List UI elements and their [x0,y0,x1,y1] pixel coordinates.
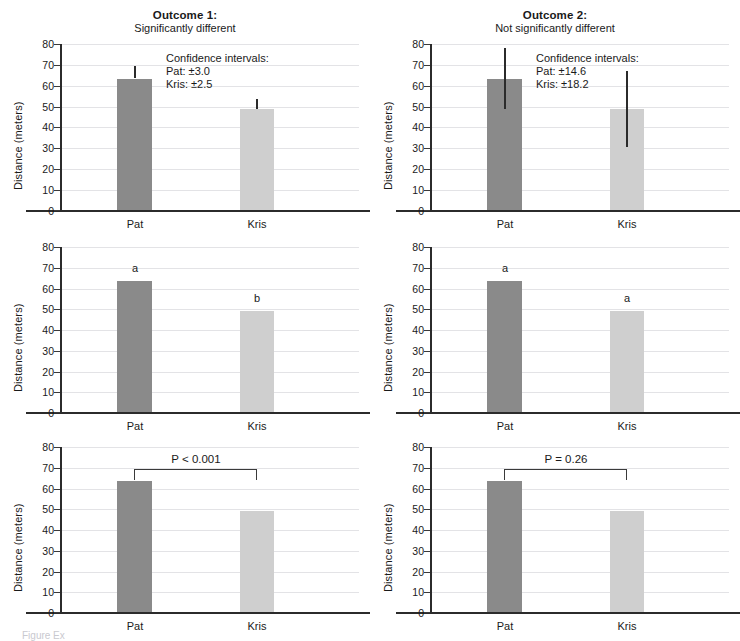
error-bar-kris [626,71,628,147]
y-tick-0 [424,210,430,211]
bar-kris [240,109,274,210]
gridline-10 [432,190,729,191]
y-tick-label-0: 0 [8,408,54,418]
error-bar-pat [504,48,506,109]
figure-caption: Figure Ex [22,630,65,641]
y-tick-20 [424,372,430,373]
gridline-80 [432,447,729,448]
x-tick-label-kris: Kris [227,218,287,230]
x-tick-label-pat: Pat [105,218,165,230]
panel-outcome2-pvalue: 80 70 60 50 40 30 20 10 0 Distance (mete… [370,435,740,635]
column-title-outcome1: Outcome 1: Significantly different [0,8,370,36]
y-tick-label-60: 60 [8,484,54,494]
letter-label-kris: a [597,292,657,304]
y-tick-20 [424,572,430,573]
y-tick-30 [54,148,60,149]
y-tick-30 [424,551,430,552]
gridline-10 [432,592,729,593]
y-tick-label-0: 0 [8,608,54,618]
y-tick-label-80: 80 [8,242,54,252]
gridline-30 [432,148,729,149]
y-tick-60 [54,86,60,87]
y-tick-60 [424,489,430,490]
annotation-line-1: Confidence intervals: [536,52,639,66]
column-title-sub: Significantly different [0,22,370,36]
y-axis-label: Distance (meters) [12,102,24,191]
y-tick-80 [424,44,430,45]
y-tick-10 [424,190,430,191]
bar-kris [240,511,274,612]
pvalue-label: P = 0.26 [505,453,627,465]
gridline-40 [62,530,359,531]
y-tick-10 [424,592,430,593]
gridline-20 [62,169,359,170]
gridline-10 [62,592,359,593]
y-tick-60 [424,289,430,290]
y-axis-label: Distance (meters) [382,102,394,191]
y-tick-label-70: 70 [8,60,54,70]
gridline-40 [432,127,729,128]
x-tick-label-pat: Pat [105,620,165,632]
error-bar-kris [256,99,258,109]
y-tick-70 [54,468,60,469]
y-axis-line [430,247,432,414]
gridline-40 [432,530,729,531]
y-tick-10 [54,392,60,393]
figure-root: Outcome 1: Significantly different [0,0,740,641]
y-tick-label-0: 0 [378,206,424,216]
x-axis-line [26,412,370,414]
gridline-30 [62,351,359,352]
gridline-10 [432,392,729,393]
gridline-50 [62,107,359,108]
y-axis-line [430,44,432,212]
y-tick-0 [54,210,60,211]
y-tick-label-60: 60 [8,81,54,91]
y-tick-80 [424,447,430,448]
gridline-80 [432,44,729,45]
y-tick-40 [54,530,60,531]
gridline-80 [432,247,729,248]
y-tick-70 [424,468,430,469]
gridline-40 [432,330,729,331]
gridline-20 [432,169,729,170]
column-title-main: Outcome 1: [0,8,370,22]
y-tick-10 [54,592,60,593]
x-tick-label-kris: Kris [227,620,287,632]
y-tick-0 [54,612,60,613]
y-tick-10 [424,392,430,393]
bar-kris [610,311,644,412]
panel-outcome1-ci: Outcome 1: Significantly different [0,0,370,230]
gridline-40 [62,330,359,331]
gridline-80 [62,44,359,45]
letter-label-pat: a [105,262,165,274]
y-tick-label-80: 80 [8,39,54,49]
y-tick-30 [424,351,430,352]
panel-outcome1-letters: 80 70 60 50 40 30 20 10 0 Distance (mete… [0,230,370,435]
y-tick-60 [424,86,430,87]
x-axis-line [26,210,370,212]
x-tick-label-kris: Kris [597,420,657,432]
gridline-50 [432,509,729,510]
y-tick-70 [54,65,60,66]
annotation-line-3: Kris: ±18.2 [536,78,589,92]
y-tick-50 [54,309,60,310]
panel-outcome1-pvalue: 80 70 60 50 40 30 20 10 0 Distance (mete… [0,435,370,635]
significance-bracket [504,469,627,480]
y-tick-30 [54,551,60,552]
y-tick-20 [424,169,430,170]
y-tick-label-60: 60 [378,81,424,91]
y-tick-label-80: 80 [8,442,54,452]
bar-kris [610,511,644,612]
y-tick-40 [54,127,60,128]
bar-kris [240,311,274,412]
bar-pat [117,481,152,612]
y-axis-label: Distance (meters) [382,504,394,593]
y-tick-label-60: 60 [8,284,54,294]
y-tick-label-80: 80 [378,39,424,49]
y-tick-label-70: 70 [8,463,54,473]
column-title-sub: Not significantly different [370,22,740,36]
gridline-20 [432,372,729,373]
y-tick-label-70: 70 [378,463,424,473]
y-axis-line [60,247,62,414]
gridline-10 [62,392,359,393]
